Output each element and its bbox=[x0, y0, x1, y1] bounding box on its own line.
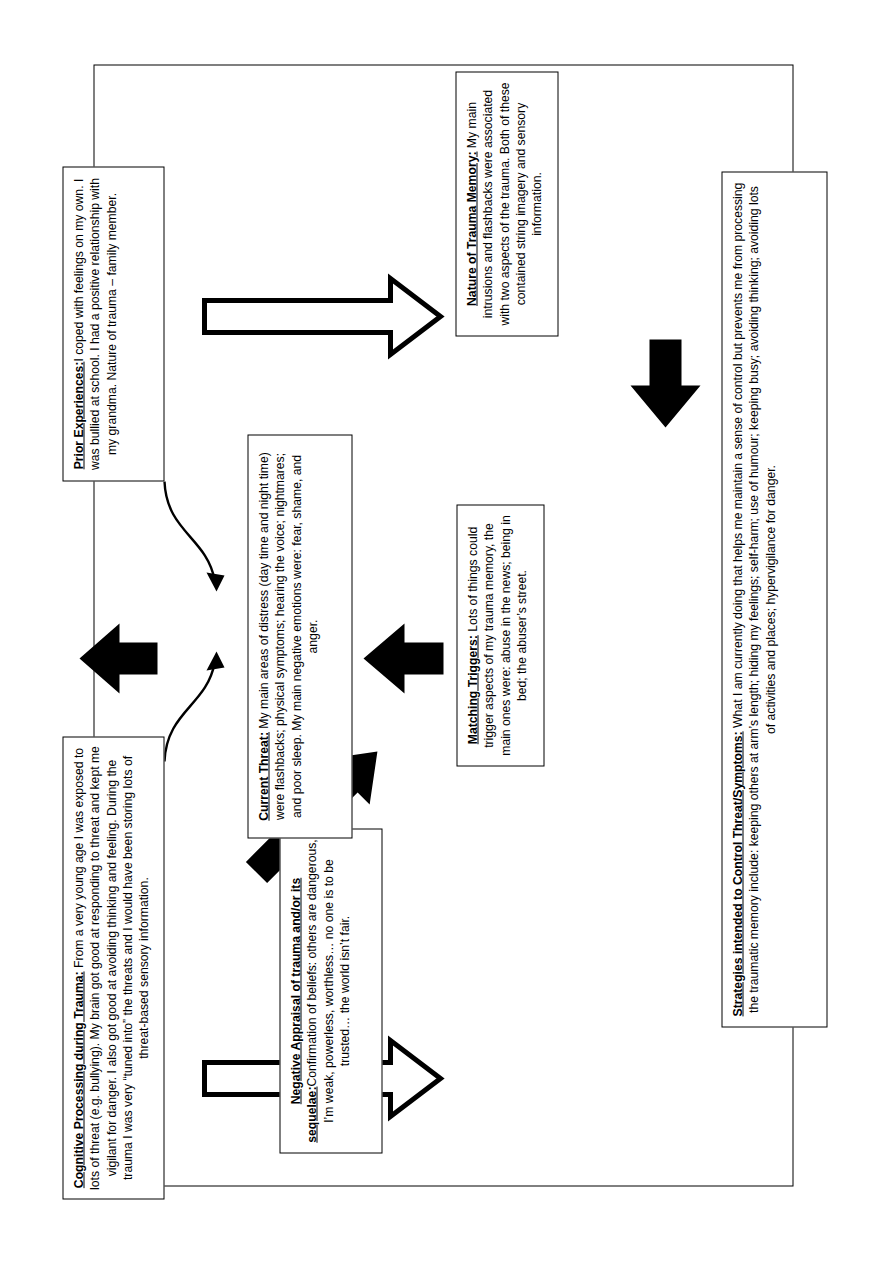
box-nature-of-trauma-memory-title: Nature of Trauma Memory: bbox=[464, 151, 478, 305]
box-prior-experiences: Prior Experiences:I coped with feelings … bbox=[62, 166, 164, 481]
box-cognitive-processing: Cognitive Processing during Trauma: From… bbox=[62, 736, 164, 1199]
box-current-threat: Current Threat: My main areas of distres… bbox=[247, 434, 352, 838]
box-cognitive-processing-title: Cognitive Processing during Trauma: bbox=[71, 971, 85, 1188]
diagram-viewport: Cognitive Processing during Trauma: From… bbox=[0, 0, 886, 1271]
box-matching-triggers: Matching Triggers: Lots of things could … bbox=[456, 504, 544, 766]
box-strategies: Strategies intended to Control Threat/Sy… bbox=[721, 171, 827, 1027]
box-nature-of-trauma-memory: Nature of Trauma Memory: My main intrusi… bbox=[455, 71, 558, 336]
box-matching-triggers-title: Matching Triggers: bbox=[465, 635, 479, 744]
box-prior-experiences-title: Prior Experiences: bbox=[71, 361, 85, 469]
diagram-stage: Cognitive Processing during Trauma: From… bbox=[0, 0, 886, 1271]
box-current-threat-title: Current Threat: bbox=[256, 732, 270, 821]
cycle-container bbox=[93, 64, 793, 1186]
box-negative-appraisal-body: Confirmation of beliefs: others are dang… bbox=[304, 839, 351, 1123]
box-negative-appraisal: Negative Appraisal of trauma and/or its … bbox=[279, 828, 382, 1153]
box-strategies-title: Strategies intended to Control Threat/Sy… bbox=[730, 731, 744, 1016]
